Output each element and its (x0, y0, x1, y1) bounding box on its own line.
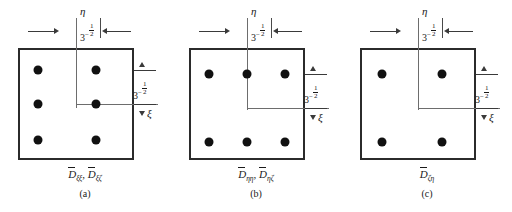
integration-point (281, 70, 290, 79)
dim-value-right: 3−12 (475, 86, 489, 105)
dim-lead-right (278, 31, 302, 32)
integration-point (281, 138, 290, 147)
dim-value-right: 3−12 (304, 86, 318, 105)
integration-point (243, 138, 252, 147)
vdim-lead-top (134, 70, 156, 71)
vdim-lead-bottom (134, 104, 156, 105)
vdim-lead-bottom (305, 108, 327, 109)
dim-lead-left (199, 31, 225, 32)
vdim-arrow-up (310, 66, 316, 71)
integration-point (92, 136, 101, 145)
dim-arrow-right (225, 28, 230, 34)
formula-term: D (238, 168, 246, 180)
vdim-lead-top (476, 74, 498, 75)
formula-term: D (68, 168, 76, 180)
panel-a: 3−12 η ξ (0, 0, 170, 212)
dim-lead-left (370, 31, 396, 32)
eta-axis-line (247, 18, 248, 110)
dim-lead-right (107, 31, 131, 32)
dim-value-top: 3−12 (251, 24, 265, 43)
dim-lead-left (28, 31, 54, 32)
dim-value-right: 3−12 (133, 82, 147, 101)
panel-a-stage: 3−12 η ξ (0, 0, 170, 168)
integration-point (205, 138, 214, 147)
axis-label-eta: η (422, 6, 427, 17)
vdim-arrow-down (481, 115, 487, 120)
formula-term: D (259, 168, 267, 180)
vdim-arrow-down (310, 115, 316, 120)
integration-point (438, 70, 447, 79)
eta-axis-line (418, 18, 419, 110)
integration-point (378, 138, 387, 147)
eta-axis-line (76, 18, 77, 108)
integration-point (92, 100, 101, 109)
panel-a-caption-letter: (a) (0, 188, 170, 199)
panel-c-caption-letter: (c) (342, 188, 512, 199)
dim-tick-right (271, 18, 272, 38)
integration-point (34, 100, 43, 109)
formula-term: D (88, 168, 96, 180)
panel-c-stage: 3−12 η ξ 3−12 (342, 0, 512, 168)
panel-c-top-dimension: 3−12 η (342, 0, 512, 48)
panel-b-formula: Dηη, Dηζ (171, 168, 341, 183)
vdim-arrow-up (481, 66, 487, 71)
axis-label-xi: ξ (489, 112, 494, 123)
dim-tick-right (100, 18, 101, 38)
panel-a-top-dimension: 3−12 η (0, 0, 170, 48)
integration-point (34, 66, 43, 75)
dim-arrow-right (54, 28, 59, 34)
panel-b-caption-letter: (b) (171, 188, 341, 199)
dim-tick-right (442, 18, 443, 38)
axis-label-xi: ξ (147, 108, 152, 119)
vdim-arrow-up (139, 62, 145, 67)
integration-point (92, 66, 101, 75)
formula-term: D (420, 168, 428, 180)
panel-b-stage: 3−12 η ξ 3−12 (171, 0, 341, 168)
axis-label-eta: η (80, 6, 85, 17)
vdim-lead-bottom (476, 108, 498, 109)
panel-c: 3−12 η ξ 3−12 Dζη (342, 0, 512, 212)
panel-b: 3−12 η ξ 3−12 (171, 0, 341, 212)
integration-point (438, 138, 447, 147)
panel-a-formula: Dξξ, Dξζ (0, 168, 170, 183)
dim-value-top: 3−12 (422, 24, 436, 43)
figure-gauss-point-layouts: 3−12 η ξ (0, 0, 512, 212)
panel-b-top-dimension: 3−12 η (171, 0, 341, 48)
dim-arrow-right (396, 28, 401, 34)
integration-point (34, 136, 43, 145)
vdim-lead-top (305, 74, 327, 75)
axis-label-eta: η (251, 6, 256, 17)
dim-value-top: 3−12 (80, 24, 94, 43)
integration-point (378, 70, 387, 79)
axis-label-xi: ξ (318, 112, 323, 123)
panel-c-formula: Dζη (342, 168, 512, 183)
integration-point (205, 70, 214, 79)
integration-point (243, 70, 252, 79)
vdim-arrow-down (139, 111, 145, 116)
dim-lead-right (449, 31, 473, 32)
